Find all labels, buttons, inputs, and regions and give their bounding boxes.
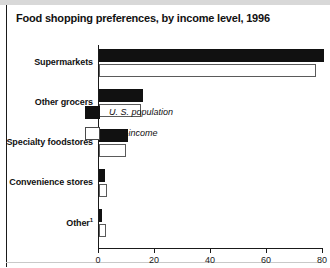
x-tick-label: 20 — [149, 255, 159, 265]
chart-figure: Food shopping preferences, by income lev… — [0, 0, 330, 268]
x-tick-label: 80 — [317, 255, 327, 265]
bar-us-population — [99, 49, 324, 62]
category-label: Supermarkets — [34, 57, 93, 67]
x-tick-mark — [210, 248, 211, 253]
plot-area: 020406080 — [98, 45, 322, 248]
category-label: Other1 — [66, 217, 93, 228]
x-tick-label: 0 — [95, 255, 100, 265]
bar-us-population — [99, 89, 143, 102]
legend-label: U. S. population — [109, 107, 173, 117]
x-tick-mark — [322, 248, 323, 253]
bar-low-income — [99, 224, 106, 237]
category-label: Convenience stores — [9, 177, 93, 187]
x-tick-label: 60 — [261, 255, 271, 265]
figure-left-rule — [6, 5, 7, 267]
x-tick-label: 40 — [205, 255, 215, 265]
bar-low-income — [99, 184, 107, 197]
scan-top-band — [0, 0, 330, 5]
bar-low-income — [99, 64, 316, 77]
legend-swatch-white-square — [85, 127, 100, 140]
legend-swatch-black-square — [85, 106, 100, 119]
legend-label: Low-income — [109, 128, 158, 138]
figure-bottom-rule — [6, 262, 322, 263]
bar-low-income — [99, 144, 126, 157]
bar-us-population — [99, 209, 102, 222]
x-tick-mark — [154, 248, 155, 253]
page-title: Food shopping preferences, by income lev… — [16, 12, 270, 24]
x-tick-mark — [266, 248, 267, 253]
chart-legend: U. S. population Low-income — [85, 103, 173, 145]
legend-item-low-income: Low-income — [85, 124, 173, 142]
bar-us-population — [99, 169, 105, 182]
legend-item-us-population: U. S. population — [85, 103, 173, 121]
x-tick-mark — [98, 248, 99, 253]
category-label: Specialty foodstores — [6, 137, 93, 147]
